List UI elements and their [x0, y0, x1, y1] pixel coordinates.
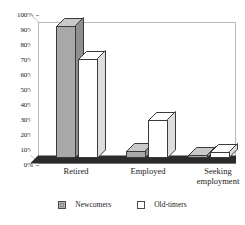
bar-side-face	[97, 50, 105, 158]
legend-item-newcomers[interactable]: Newcomers	[58, 201, 111, 209]
bar-front-face	[78, 59, 98, 158]
bar-front-face	[126, 151, 146, 158]
bar-side-face	[167, 111, 175, 158]
bar-old-timers-employed[interactable]	[148, 120, 168, 158]
bar-newcomers-retired[interactable]	[56, 26, 76, 158]
legend-label-oldtimers: Old-timers	[154, 201, 187, 209]
chart-legend: Newcomers Old-timers	[0, 197, 245, 213]
bar-old-timers-seeking-employment[interactable]	[210, 152, 230, 158]
chart-container: 0%10%20%30%40%50%60%70%80%90%100% Retire…	[0, 0, 245, 225]
legend-label-newcomers: Newcomers	[75, 201, 111, 209]
bar-side-face	[229, 143, 237, 158]
legend-item-oldtimers[interactable]: Old-timers	[137, 201, 187, 209]
bar-old-timers-retired[interactable]	[78, 59, 98, 158]
x-axis-labels: RetiredEmployedSeekingemployment	[28, 166, 242, 192]
x-axis-label-seeking-employment: Seekingemployment	[168, 166, 245, 186]
bar-front-face	[56, 26, 76, 158]
legend-swatch-oldtimers-icon	[137, 201, 145, 209]
legend-swatch-newcomers-icon	[58, 201, 66, 209]
bar-newcomers-seeking-employment[interactable]	[188, 155, 208, 158]
bar-front-face	[148, 120, 168, 158]
bars-layer	[30, 22, 236, 164]
bar-newcomers-employed[interactable]	[126, 151, 146, 158]
